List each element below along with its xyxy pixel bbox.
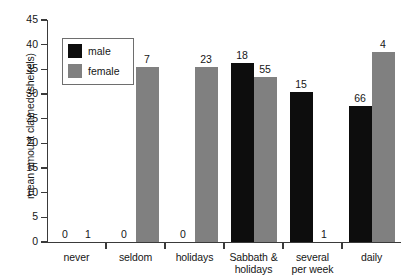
bar-value-female-seldom: 7 [130,53,165,65]
x-tick-5 [341,243,342,249]
cat-label-line: holidays [176,251,214,263]
x-category-label-several-per-week: severalper week [283,251,342,275]
y-axis-line [47,20,48,242]
cat-label-line: Sabbath & [229,251,277,263]
x-tick-4 [282,243,283,249]
y-tick-label-20: 20 [0,136,38,148]
y-tick-label-40: 40 [0,38,38,50]
bar-value-male-several-per-week: 15 [284,78,319,90]
x-category-label-seldom: seldom [106,251,165,263]
x-category-label-holidays: holidays [165,251,224,263]
cat-label-line: seldom [119,251,152,263]
y-tick-25 [41,118,47,119]
y-tick-10 [41,192,47,193]
y-tick-40 [41,44,47,45]
y-tick-35 [41,69,47,70]
bar-male-daily [349,106,372,242]
x-tick-3 [223,243,224,249]
legend: male female [62,38,134,85]
y-tick-45 [41,19,47,20]
x-tick-1 [105,243,106,249]
y-tick-20 [41,143,47,144]
x-category-label-daily: daily [342,251,401,263]
bar-female-seldom [136,67,159,242]
y-tick-label-35: 35 [0,62,38,74]
bar-male-several-per-week [290,92,313,242]
bar-female-daily [372,52,395,242]
bar-value-female-holidays: 23 [189,53,224,65]
legend-label-male: male [88,45,111,57]
y-tick-15 [41,167,47,168]
bar-value-female-never: 1 [71,228,106,240]
y-tick-label-30: 30 [0,87,38,99]
y-tick-0 [41,241,47,242]
bar-value-female-several-per-week: 1 [307,228,342,240]
legend-item-male: male [68,44,111,58]
y-tick-label-0: 0 [0,235,38,247]
cat-label-line: holidays [235,263,273,275]
bar-chart: mean amount claimed (shekels) 0510152025… [0,0,419,280]
y-tick-label-45: 45 [0,13,38,25]
bar-value-male-sabbath-holidays: 18 [225,49,260,61]
bar-value-female-sabbath-holidays: 55 [248,63,283,75]
bar-female-sabbath-holidays [254,77,277,242]
bar-male-sabbath-holidays [231,63,254,242]
y-tick-30 [41,93,47,94]
legend-swatch-male-icon [68,44,82,58]
cat-label-line: several [296,251,329,263]
x-tick-2 [164,243,165,249]
y-tick-label-10: 10 [0,186,38,198]
cat-label-line: never [64,251,90,263]
legend-item-female: female [68,64,120,78]
bar-female-holidays [195,67,218,242]
bar-value-female-daily: 4 [366,38,401,50]
y-tick-label-5: 5 [0,210,38,222]
cat-label-line: per week [292,263,334,275]
x-category-label-sabbath-holidays: Sabbath &holidays [224,251,283,275]
legend-swatch-female-icon [68,64,82,78]
legend-label-female: female [88,65,120,77]
cat-label-line: daily [361,251,382,263]
x-category-label-never: never [47,251,106,263]
y-tick-label-15: 15 [0,161,38,173]
y-tick-5 [41,217,47,218]
y-tick-label-25: 25 [0,112,38,124]
